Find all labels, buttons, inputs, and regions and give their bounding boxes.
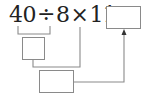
step1-answer-box[interactable] [22, 37, 45, 60]
bracket-40-div-8 [18, 26, 50, 34]
step2-answer-box[interactable] [39, 70, 74, 93]
result-answer-box[interactable] [106, 6, 141, 29]
arrowhead-icon [122, 29, 127, 35]
arrow-line-to-result [74, 33, 124, 82]
